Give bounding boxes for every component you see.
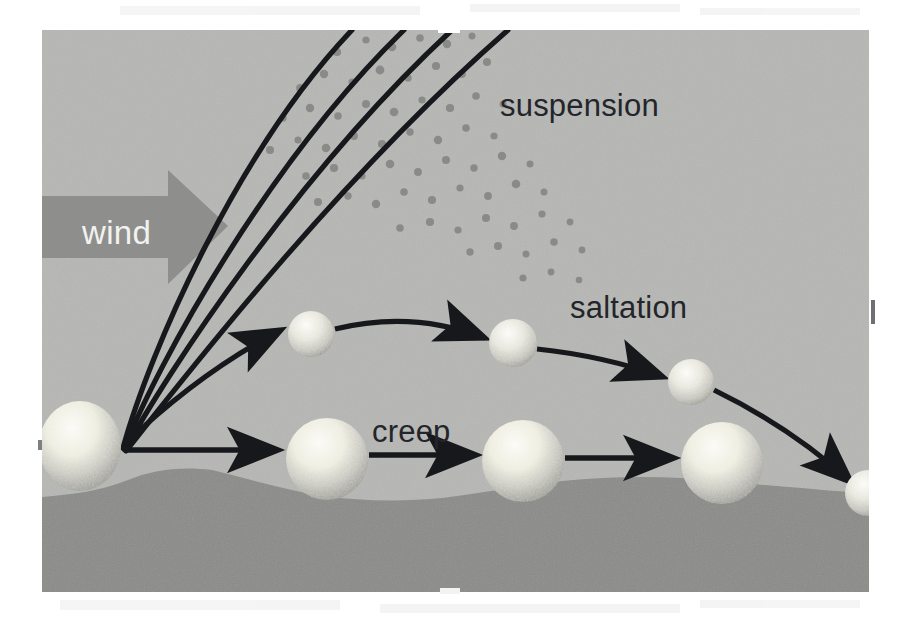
bottom-edge-notch: [440, 588, 460, 594]
saltation-grain-2: [489, 319, 537, 367]
saltation-grain-3: [668, 359, 714, 405]
suspension-label: suspension: [500, 88, 659, 123]
diagram-panel: wind: [39, 30, 891, 592]
wind-transport-diagram: wind: [0, 0, 906, 623]
left-edge-tick: [38, 440, 42, 450]
creep-grain-2: [482, 420, 564, 502]
source-grain: [39, 401, 121, 491]
figure-stage: wind: [0, 0, 906, 623]
saltation-label: saltation: [570, 290, 687, 325]
right-edge-tick: [871, 300, 875, 324]
top-edge-notch: [438, 28, 460, 33]
wind-label: wind: [81, 214, 151, 251]
creep-grain-1: [286, 418, 368, 500]
saltation-grain-1: [288, 311, 334, 357]
creep-grain-3: [681, 422, 763, 504]
creep-label: creep: [372, 414, 451, 449]
